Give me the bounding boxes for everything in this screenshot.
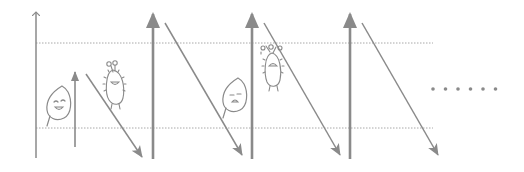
ellipsis-dots <box>431 87 497 91</box>
down-diagonal-arrow <box>264 23 340 155</box>
ellipsis-dot <box>444 87 448 91</box>
cycle-diagram <box>0 0 524 172</box>
down-diagonal-arrow <box>165 23 242 155</box>
ellipsis-dot <box>469 87 473 91</box>
down-diagonal-arrow <box>86 74 142 157</box>
leaf-sad-icon <box>223 78 247 118</box>
bug-happy-icon <box>103 61 126 109</box>
vertical-arrows <box>36 12 350 159</box>
ellipsis-dot <box>431 87 435 91</box>
ellipsis-dot <box>481 87 485 91</box>
boundary-lines <box>36 43 433 128</box>
ellipsis-dot <box>494 87 498 91</box>
leaf-happy-icon <box>47 86 71 126</box>
ellipsis-dot <box>456 87 460 91</box>
